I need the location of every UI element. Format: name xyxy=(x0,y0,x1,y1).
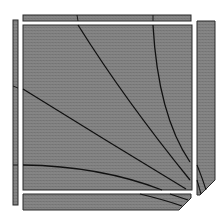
main-square xyxy=(23,25,192,190)
top-bar xyxy=(23,15,191,21)
right-bar xyxy=(197,21,215,195)
geometric-diagram xyxy=(0,0,224,215)
bottom-bar xyxy=(23,194,191,210)
left-bar xyxy=(13,20,18,205)
